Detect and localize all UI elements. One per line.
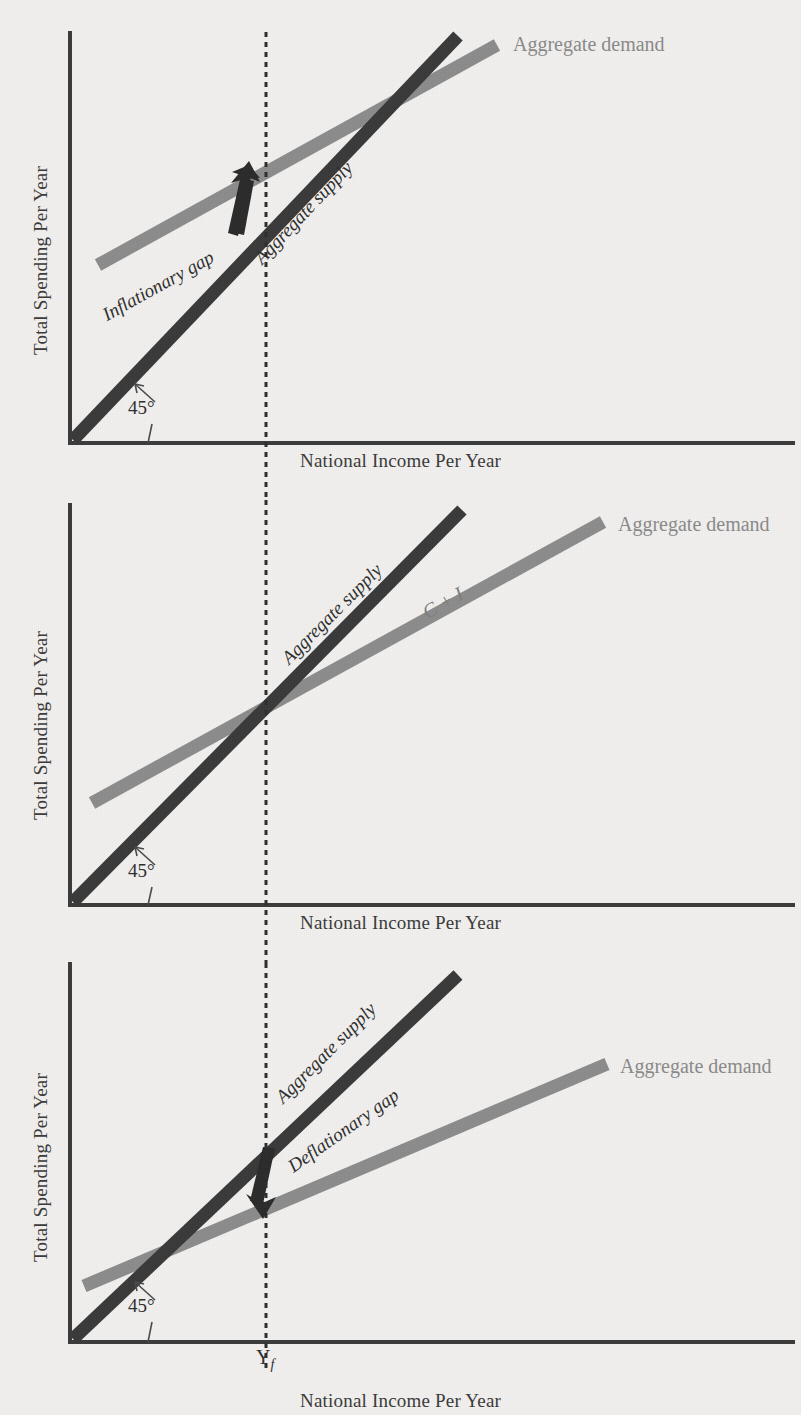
figure-canvas: Total Spending Per Year National Income …	[0, 0, 801, 1415]
full-employment-line-overlay	[0, 0, 801, 1415]
